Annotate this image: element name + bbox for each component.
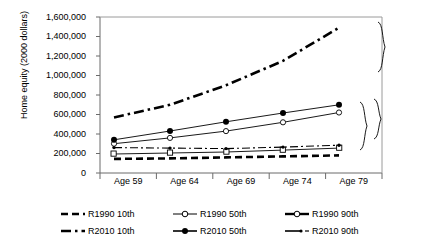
series-line-r2010-90th	[114, 28, 339, 118]
home-equity-line-chart: Home equity (2000 dollars) 1,600,000 1,4…	[0, 0, 434, 247]
x-tick-label-age-59: Age 59	[100, 176, 156, 186]
legend-label: R2010 10th	[86, 226, 135, 236]
legend-symbol-dashed-icon	[60, 208, 86, 220]
legend-label: R1990 90th	[310, 209, 359, 219]
x-tick-label-age-74: Age 74	[269, 176, 325, 186]
legend-symbol-open-circle-icon	[172, 208, 198, 220]
lower-brace-inner	[360, 102, 367, 150]
legend-symbol-thick-open-circle-icon	[284, 208, 310, 220]
legend-row-r2010: R2010 10th R2010 50th R2010 90th	[60, 222, 420, 239]
legend-symbol-dash-dot-dot-icon	[284, 225, 310, 237]
legend-label: R2010 50th	[198, 226, 247, 236]
x-tick-label-age-79: Age 79	[326, 176, 382, 186]
legend-row-r1990: R1990 10th R1990 50th R1990 90th	[60, 205, 420, 222]
legend-item-r1990-10th[interactable]: R1990 10th	[60, 205, 172, 222]
legend-label: R2010 90th	[310, 226, 359, 236]
series-markers-r2010-50th	[111, 102, 342, 143]
legend-item-r1990-90th[interactable]: R1990 90th	[284, 205, 404, 222]
y-tick-marks	[96, 17, 100, 173]
chart-legend: R1990 10th R1990 50th R1990 90th	[60, 205, 420, 243]
legend-item-r1990-50th[interactable]: R1990 50th	[172, 205, 284, 222]
legend-item-r2010-90th[interactable]: R2010 90th	[284, 222, 404, 239]
legend-symbol-thick-dash-dot-icon	[60, 225, 86, 237]
x-tick-label-age-69: Age 69	[213, 176, 269, 186]
legend-symbol-filled-circle-icon	[172, 225, 198, 237]
x-tick-label-age-64: Age 64	[156, 176, 212, 186]
series-line-r1990-10th	[114, 155, 339, 159]
legend-label: R1990 10th	[86, 209, 135, 219]
legend-item-r2010-50th[interactable]: R2010 50th	[172, 222, 284, 239]
lower-brace	[374, 99, 381, 139]
legend-item-r2010-10th[interactable]: R2010 10th	[60, 222, 172, 239]
legend-label: R1990 50th	[198, 209, 247, 219]
